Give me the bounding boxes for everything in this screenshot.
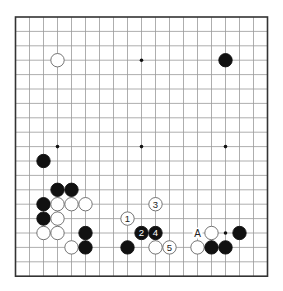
black-stone [37,154,50,167]
white-stone: 5 [163,241,176,254]
move-number: 3 [153,199,158,210]
black-stone [79,241,92,254]
go-board: 12345 A [0,0,283,291]
white-stone [51,54,64,67]
white-stone [51,212,64,225]
markers-layer: A [193,228,203,239]
move-number: 4 [153,227,158,238]
black-stone [79,226,92,239]
black-stone: 4 [149,226,162,239]
black-stone [219,54,232,67]
white-stone: 1 [121,212,134,225]
black-stone [37,198,50,211]
black-stone [205,241,218,254]
star-point [56,145,60,149]
black-stone [51,183,64,196]
white-stone [79,198,92,211]
white-stone [191,241,204,254]
black-stone [121,241,134,254]
black-stone [233,226,246,239]
star-point [224,231,228,235]
star-point [224,145,228,149]
white-stone [65,241,78,254]
white-stone [51,226,64,239]
white-stone: 3 [149,198,162,211]
white-stone [149,241,162,254]
black-stone: 2 [135,226,148,239]
move-number: 5 [167,242,172,253]
move-number: 2 [139,227,144,238]
black-stone [219,241,232,254]
white-stone [65,198,78,211]
move-number: 1 [125,213,130,224]
white-stone [205,226,218,239]
white-stone [51,198,64,211]
black-stone [65,183,78,196]
point-label: A [194,228,201,239]
white-stone [37,226,50,239]
star-point [140,58,144,62]
black-stone [37,212,50,225]
star-point [140,145,144,149]
